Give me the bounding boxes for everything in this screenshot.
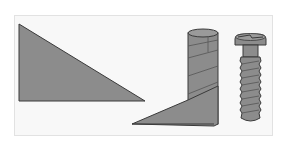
diagram-svg bbox=[0, 0, 286, 141]
diagram-canvas: Inclined plane wrapped around a cylinder… bbox=[0, 0, 286, 141]
wrapped-plane-cylinder bbox=[132, 29, 218, 126]
screw bbox=[235, 34, 266, 122]
inclined-plane-triangle bbox=[19, 24, 145, 101]
